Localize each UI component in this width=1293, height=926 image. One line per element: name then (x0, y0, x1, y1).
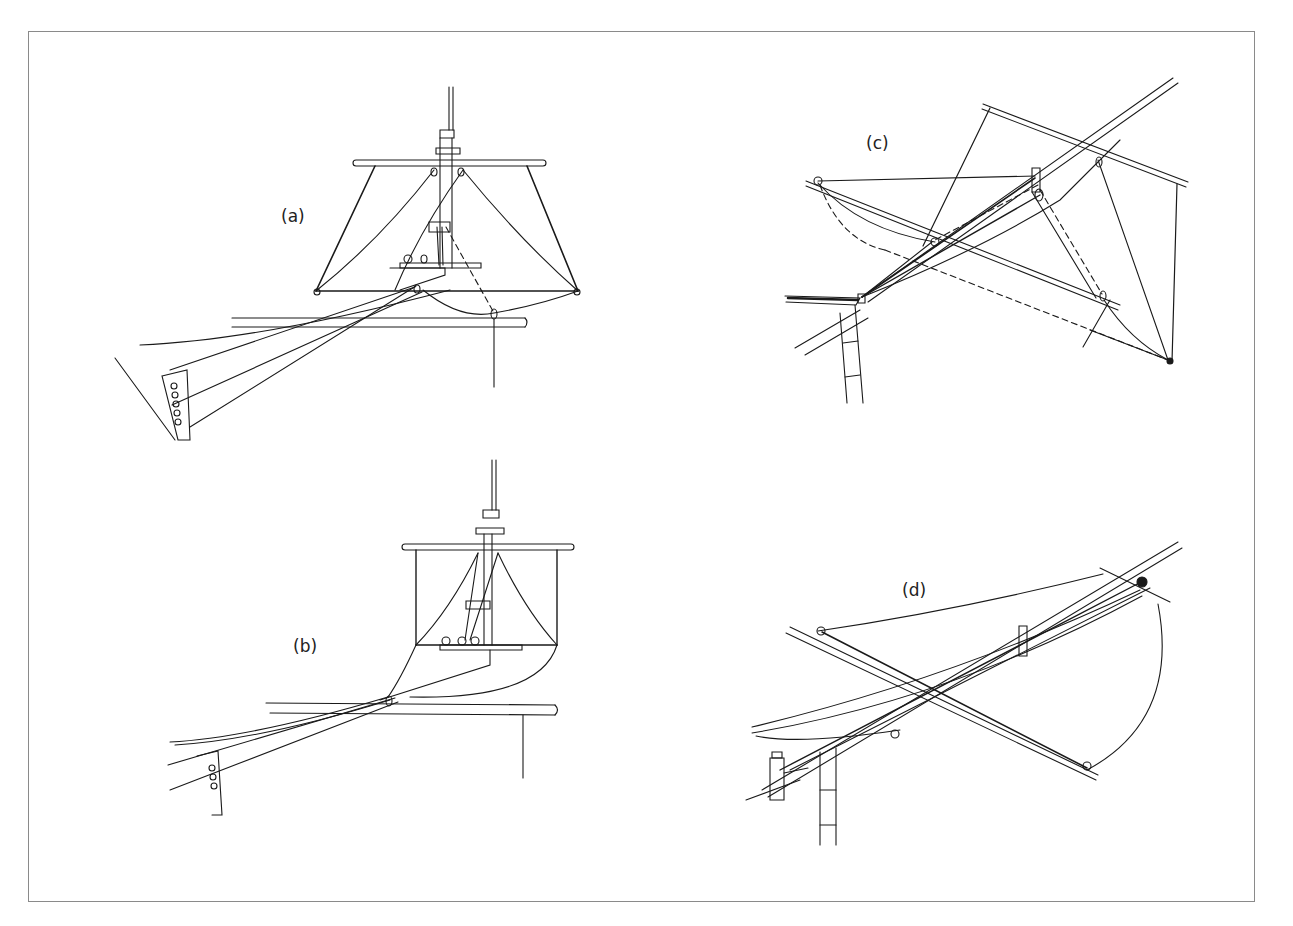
panel-d-label: (d) (902, 580, 926, 600)
panel-a-drawing (115, 87, 580, 440)
panel-b-drawing (168, 460, 574, 815)
panel-a-label: (a) (281, 206, 305, 226)
panel-d-drawing (746, 542, 1182, 845)
rigging-illustrations: (a) (b) (0, 0, 1293, 926)
panel-c-drawing (785, 78, 1188, 403)
panel-c-label: (c) (866, 133, 889, 153)
panel-b-label: (b) (293, 636, 317, 656)
